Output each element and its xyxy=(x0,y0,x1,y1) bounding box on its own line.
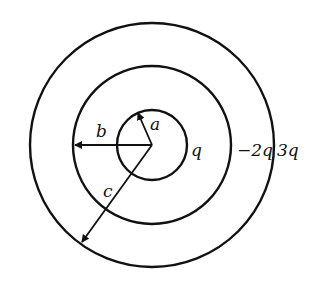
radius-c-arrow xyxy=(82,145,152,242)
charge-middle: −2q xyxy=(237,140,273,160)
concentric-shells-diagram: a b c q −2q 3q xyxy=(0,0,314,283)
charge-outer: 3q xyxy=(277,140,299,160)
label-c: c xyxy=(103,181,113,201)
charge-inner: q xyxy=(191,140,202,160)
label-b: b xyxy=(96,121,107,141)
label-a: a xyxy=(150,114,160,134)
